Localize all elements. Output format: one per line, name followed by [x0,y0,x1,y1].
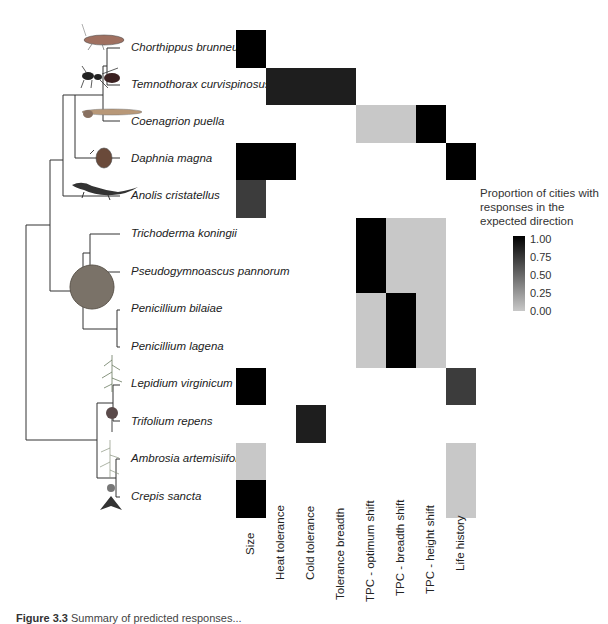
caption-label: Figure 3.3 [16,612,68,624]
heatmap-cell [236,368,266,406]
heatmap-cell [236,180,266,218]
trifolium-plant-icon [106,407,118,432]
phylogeny-tree [0,0,240,600]
heatmap-cell [356,330,386,368]
heatmap-cell [356,255,386,293]
heatmap-cell [266,68,296,106]
heatmap-cell [416,105,446,143]
species-label: Trichoderma koningii [131,227,237,239]
species-label: Ambrosia artemisiifolia [131,452,247,464]
heatmap-cell [446,480,476,518]
heatmap-cell [446,368,476,406]
heatmap-cell [236,143,266,181]
heatmap-cell [446,443,476,481]
grasshopper-icon [82,24,124,50]
legend-tick: 0.75 [530,251,551,263]
legend-tick: 0.25 [530,287,551,299]
column-label: Size [244,533,256,555]
column-label: TPC - optimum shift [364,500,376,602]
heatmap-cell [446,143,476,181]
species-label: Crepis sancta [131,490,201,502]
species-label: Anolis cristatellus [131,189,220,201]
heatmap-cell [236,480,266,518]
species-label: Penicillium lagena [131,340,224,352]
column-label: Life history [454,515,466,571]
species-label: Daphnia magna [131,152,212,164]
legend-tick: 0.50 [530,269,551,281]
heatmap-cell [386,293,416,331]
column-label: Tolerance breadth [334,508,346,600]
column-label: Cold tolerance [304,506,316,580]
species-label: Lepidium virginicum [131,377,233,389]
figure-caption: Figure 3.3 Summary of predicted response… [16,612,242,624]
lepidium-plant-icon [102,355,122,392]
column-label: TPC - height shift [424,505,436,594]
heatmap-cell [266,143,296,181]
species-label: Trifolium repens [131,415,213,427]
heatmap-cell [416,218,446,256]
fungus-culture-icon [70,265,114,309]
column-label: Heat tolerance [274,505,286,580]
heatmap-cell [236,30,266,68]
heatmap-cell [386,105,416,143]
heatmap-cell [386,218,416,256]
heatmap-cell [296,405,326,443]
caption-text: Summary of predicted responses... [71,612,242,624]
species-label: Temnothorax curvispinosus [131,78,271,90]
figure: Chorthippus brunneus Temnothorax curvisp… [0,0,608,624]
heatmap-cell [296,68,326,106]
heatmap-cell [416,255,446,293]
column-label: TPC - breadth shift [394,499,406,596]
legend-tick: 1.00 [530,233,551,245]
heatmap-cell [416,293,446,331]
species-label: Penicillium bilaiae [131,302,222,314]
heatmap-cell [386,255,416,293]
species-label: Chorthippus brunneus [131,41,244,53]
heatmap-cell [356,218,386,256]
lizard-icon [72,183,138,200]
heatmap-cell [326,68,356,106]
heatmap-cell [236,443,266,481]
legend-colorbar [513,236,525,311]
heatmap-cell [356,293,386,331]
legend-tick: 0.00 [530,305,551,317]
heatmap-cell [356,105,386,143]
species-label: Coenagrion puella [131,115,224,127]
species-label: Pseudogymnoascus pannorum [131,265,290,277]
legend-title: Proportion of cities with responses in t… [480,186,608,228]
heatmap-cell [416,330,446,368]
heatmap-cell [386,330,416,368]
